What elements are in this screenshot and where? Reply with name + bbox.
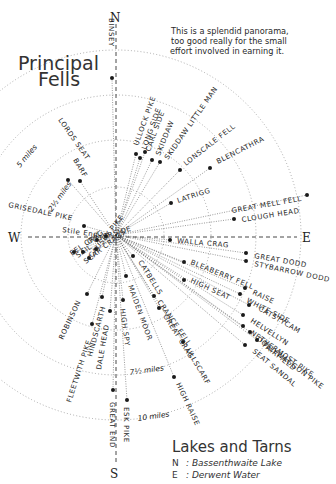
fell-marker: [178, 168, 182, 172]
sight-line: [116, 219, 234, 235]
distance-ring-label: 5 miles: [15, 143, 39, 170]
panorama-svg: BINSEYLORDS SEATBARFULLOCK PIKELONG SIDE…: [0, 0, 336, 484]
fell-label: HIGH RAISE: [174, 381, 201, 427]
fell-marker: [244, 259, 248, 263]
fell-marker: [168, 238, 172, 242]
fell-label: FLEETWITH PIKE: [65, 339, 93, 404]
note-line-2: too good really for the small: [171, 36, 287, 46]
fell-marker: [121, 298, 125, 302]
fell-marker: [100, 295, 104, 299]
compass-east: E: [302, 231, 311, 245]
fell-label: ULLSCARF: [184, 347, 211, 386]
sight-line: [116, 235, 250, 332]
fell-label: HIGH SPY: [118, 308, 131, 347]
fell-marker: [243, 343, 247, 347]
fell-marker: [158, 160, 162, 164]
sight-line: [116, 160, 152, 235]
fell-marker: [125, 398, 129, 402]
compass-south: S: [110, 467, 118, 481]
fell-marker: [208, 166, 212, 170]
fell-marker: [111, 388, 115, 392]
legend-key-e: E: [172, 470, 178, 480]
legend-item-derwent: : Derwent Water: [186, 470, 261, 480]
fell-marker: [182, 260, 186, 264]
fell-marker: [169, 201, 173, 205]
fell-label: CATBELLS: [136, 259, 164, 297]
distance-ring-label: 7½ miles: [129, 363, 164, 377]
fell-marker: [134, 152, 138, 156]
panorama-diagram: BINSEYLORDS SEATBARFULLOCK PIKELONG SIDE…: [0, 0, 336, 484]
fell-marker: [182, 278, 186, 282]
fell-marker: [241, 324, 245, 328]
fell-label: GREAT END: [108, 402, 116, 448]
distance-ring-label: 2½ miles: [46, 180, 73, 213]
fell-label: ROBINSON: [58, 299, 83, 341]
distance-ring-label: 10 miles: [137, 410, 170, 423]
fell-marker: [131, 254, 135, 258]
compass-north: N: [110, 11, 121, 25]
fell-label: LORDS SEAT: [56, 117, 91, 162]
fell-label: WALLA CRAG: [177, 237, 229, 249]
fell-label: LATRIGG: [176, 187, 211, 205]
sight-line: [116, 162, 160, 235]
fell-marker: [305, 193, 309, 197]
fell-marker: [241, 313, 245, 317]
fell-marker: [138, 156, 142, 160]
fell-label: ESK PIKE: [122, 407, 130, 443]
fell-marker: [238, 292, 242, 296]
fell-marker: [150, 158, 154, 162]
fell-marker: [232, 217, 236, 221]
title-line-2: Fells: [38, 68, 80, 90]
fell-marker: [85, 292, 89, 296]
fell-marker: [124, 274, 128, 278]
fell-marker: [82, 224, 86, 228]
fell-marker: [108, 309, 112, 313]
fell-label: GRISEDALE PIKE: [8, 201, 74, 222]
note-line-1: This is a splendid panorama,: [170, 26, 289, 36]
fell-marker: [152, 294, 156, 298]
sight-line: [116, 235, 257, 340]
fell-marker: [110, 76, 114, 80]
sight-line: [116, 235, 184, 262]
fell-marker: [78, 179, 82, 183]
legend-title: Lakes and Tarns: [172, 438, 292, 456]
legend-key-n: N: [172, 458, 179, 468]
legend-item-bassenthwaite: : Bassenthwaite Lake: [186, 458, 282, 468]
compass-west: W: [8, 231, 21, 245]
fell-marker: [244, 251, 248, 255]
note-line-3: effort involved in earning it.: [170, 46, 284, 56]
sight-line: [112, 78, 116, 235]
fell-marker: [172, 375, 176, 379]
